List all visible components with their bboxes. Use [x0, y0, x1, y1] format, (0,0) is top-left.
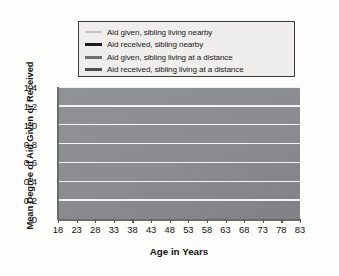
- x-axis-tick-mark: [188, 219, 189, 223]
- y-axis-tick-label: 1.2: [3, 100, 37, 111]
- legend-item-label: Aid given, sibling living at a distance: [107, 53, 233, 62]
- chart-figure: Aid given, sibling living nearby Aid rec…: [0, 0, 339, 276]
- legend-item-label: Aid given, sibling living nearby: [107, 28, 212, 37]
- x-axis-tick-mark: [151, 219, 152, 223]
- legend-swatch-line-icon: [85, 68, 102, 71]
- legend-item-label: Aid received, sibling living at a distan…: [107, 65, 244, 74]
- x-axis-tick-mark: [244, 219, 245, 223]
- y-axis-tick-label: 0.4: [3, 176, 37, 187]
- x-axis-tick-mark: [263, 219, 264, 223]
- legend-item-label: Aid received, sibling nearby: [107, 40, 203, 49]
- legend-swatch-line-icon: [85, 43, 102, 46]
- x-axis-title: Age in Years: [58, 246, 300, 257]
- gridline: [58, 143, 300, 144]
- x-axis-tick-mark: [114, 219, 115, 223]
- gridline: [58, 199, 300, 200]
- y-axis-tick-label: 1.4: [3, 82, 37, 93]
- x-axis-tick-mark: [281, 219, 282, 223]
- legend-swatch-line-icon: [85, 56, 102, 59]
- legend-item-aid-given-distance: Aid given, sibling living at a distance: [85, 51, 288, 64]
- y-axis-line: [57, 87, 59, 220]
- x-axis-tick-mark: [95, 219, 96, 223]
- legend-item-aid-received-nearby: Aid received, sibling nearby: [85, 39, 288, 52]
- y-axis-tick-label: 0.8: [3, 138, 37, 149]
- gridline: [58, 87, 300, 88]
- x-axis-tick-mark: [300, 219, 301, 223]
- legend-item-aid-given-nearby: Aid given, sibling living nearby: [85, 26, 288, 39]
- chart-legend: Aid given, sibling living nearby Aid rec…: [78, 21, 295, 77]
- x-axis-tick-mark: [132, 219, 133, 223]
- y-axis-tick-label: 0.2: [3, 195, 37, 206]
- gridline: [58, 162, 300, 163]
- gridline: [58, 181, 300, 182]
- y-axis-tick-label: 0.6: [3, 157, 37, 168]
- y-axis-tick-label: 1.0: [3, 119, 37, 130]
- x-axis-tick-mark: [77, 219, 78, 223]
- plot-area: [58, 87, 300, 219]
- gridline: [58, 105, 300, 106]
- gridline: [58, 124, 300, 125]
- y-axis-tick-label: 0: [3, 214, 37, 225]
- x-axis-tick-mark: [58, 219, 59, 223]
- x-axis-tick-label: 83: [288, 225, 312, 235]
- x-axis-tick-mark: [170, 219, 171, 223]
- x-axis-tick-mark: [207, 219, 208, 223]
- legend-swatch-line-icon: [85, 31, 102, 33]
- x-axis-tick-mark: [226, 219, 227, 223]
- legend-item-aid-received-distance: Aid received, sibling living at a distan…: [85, 64, 288, 77]
